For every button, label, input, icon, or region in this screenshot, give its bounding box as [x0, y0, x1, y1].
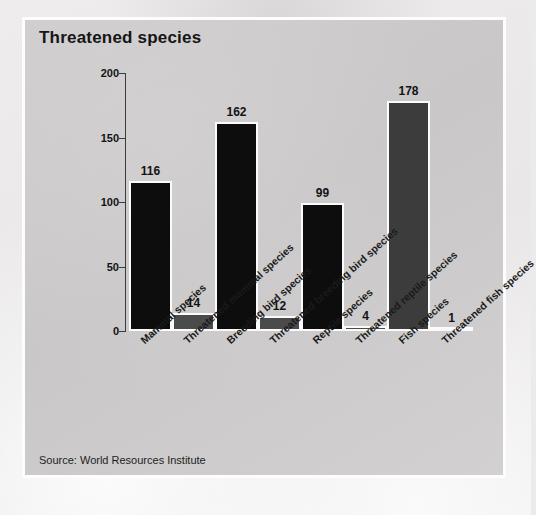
chart-panel: Threatened species 050100150200 11614162… [22, 17, 506, 478]
bar [129, 181, 172, 331]
bar-group: 116 [129, 157, 172, 331]
bar-value-label: 99 [301, 186, 344, 200]
bar-value-label: 162 [215, 105, 258, 119]
bar-value-label: 178 [387, 84, 430, 98]
plot-area: 050100150200 11614162129941781 Mammal sp… [25, 20, 509, 481]
x-axis-category-labels: Mammal speciesThreatened mammal speciesB… [25, 331, 509, 451]
bar-value-label: 116 [129, 164, 172, 178]
source-note: Source: World Resources Institute [39, 454, 206, 466]
